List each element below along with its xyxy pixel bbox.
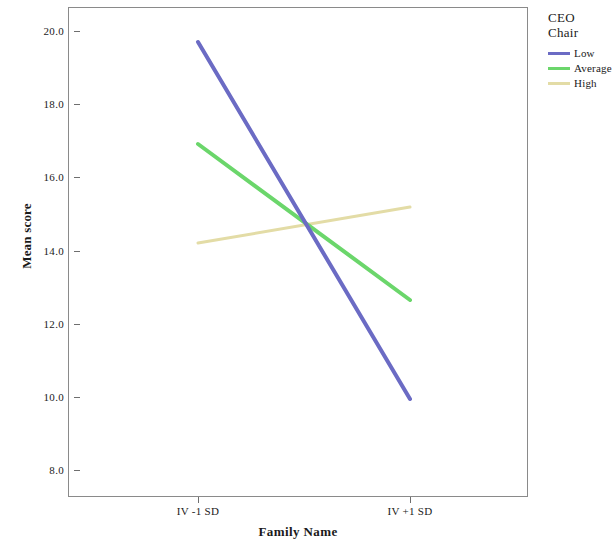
legend-title-line1: CEO bbox=[548, 10, 606, 25]
series-line-low bbox=[198, 42, 410, 399]
y-tick-label: 16.0 bbox=[20, 171, 64, 183]
x-tick-label: IV -1 SD bbox=[143, 505, 253, 517]
x-tick-mark bbox=[410, 497, 411, 503]
legend-label-low: Low bbox=[574, 47, 595, 59]
series-line-high bbox=[198, 207, 410, 243]
y-tick-label: 14.0 bbox=[20, 245, 64, 257]
legend-item-high: High bbox=[548, 76, 606, 90]
y-tick-mark bbox=[74, 324, 80, 325]
y-tick-mark bbox=[74, 177, 80, 178]
legend-label-average: Average bbox=[574, 62, 612, 74]
y-tick-mark bbox=[74, 397, 80, 398]
y-tick-mark bbox=[74, 104, 80, 105]
x-axis-title: Family Name bbox=[68, 524, 528, 540]
y-tick-label: 12.0 bbox=[20, 318, 64, 330]
legend-swatch-high-icon bbox=[548, 82, 570, 85]
legend-item-average: Average bbox=[548, 61, 606, 75]
x-tick-mark bbox=[198, 497, 199, 503]
legend-swatch-average-icon bbox=[548, 67, 570, 70]
legend-label-high: High bbox=[574, 77, 597, 89]
y-axis-ticks: 20.0 18.0 16.0 14.0 12.0 10.0 8.0 bbox=[12, 0, 64, 548]
y-tick-label: 10.0 bbox=[20, 391, 64, 403]
y-tick-label: 20.0 bbox=[20, 25, 64, 37]
x-tick-label: IV +1 SD bbox=[355, 505, 465, 517]
legend-item-low: Low bbox=[548, 46, 606, 60]
legend: CEO Chair Low Average High bbox=[548, 10, 606, 91]
y-tick-mark bbox=[74, 251, 80, 252]
y-tick-label: 18.0 bbox=[20, 98, 64, 110]
plot-lines-canvas bbox=[68, 7, 528, 497]
y-tick-mark bbox=[74, 470, 80, 471]
legend-swatch-low-icon bbox=[548, 52, 570, 55]
legend-items: Low Average High bbox=[548, 46, 606, 90]
y-tick-label: 8.0 bbox=[20, 464, 64, 476]
y-tick-mark bbox=[74, 31, 80, 32]
legend-title-line2: Chair bbox=[548, 25, 606, 40]
